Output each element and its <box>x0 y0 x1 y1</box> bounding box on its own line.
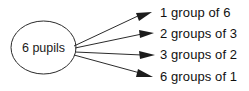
branch-line-4 <box>74 55 140 73</box>
branch-label-2: 2 groups of 3 <box>160 26 237 41</box>
source-node: 6 pupils <box>11 21 76 74</box>
source-node-label: 6 pupils <box>22 41 65 55</box>
factor-diagram: 6 pupils 1 group of 6 2 groups of 3 3 gr… <box>0 0 249 91</box>
branch-label-3: 3 groups of 2 <box>160 47 237 62</box>
branch-arrowhead-4 <box>136 69 153 77</box>
branch-connector-2 <box>75 30 154 48</box>
branch-arrowhead-3 <box>139 51 155 59</box>
branch-arrowhead-2 <box>139 30 154 38</box>
branch-line-3 <box>75 52 142 55</box>
branch-label-1: 1 group of 6 <box>160 5 231 20</box>
branch-connector-1 <box>74 12 152 46</box>
branch-arrowhead-1 <box>136 12 152 21</box>
branch-connector-3 <box>75 51 155 59</box>
branch-label-4: 6 groups of 1 <box>160 69 237 84</box>
diagram-canvas: 6 pupils 1 group of 6 2 groups of 3 3 gr… <box>0 0 249 91</box>
